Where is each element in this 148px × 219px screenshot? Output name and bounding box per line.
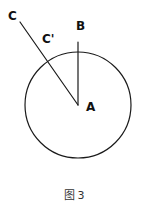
geometry-figure: C C' B A 图3 xyxy=(0,0,148,219)
geometry-canvas xyxy=(0,0,148,219)
point-label-c-prime: C' xyxy=(42,33,54,45)
caption-word: 图 xyxy=(64,189,75,202)
figure-caption: 图3 xyxy=(0,190,148,201)
point-label-a: A xyxy=(86,101,95,113)
caption-number: 3 xyxy=(78,189,85,202)
point-label-c: C xyxy=(8,10,17,22)
point-label-b: B xyxy=(76,20,85,32)
